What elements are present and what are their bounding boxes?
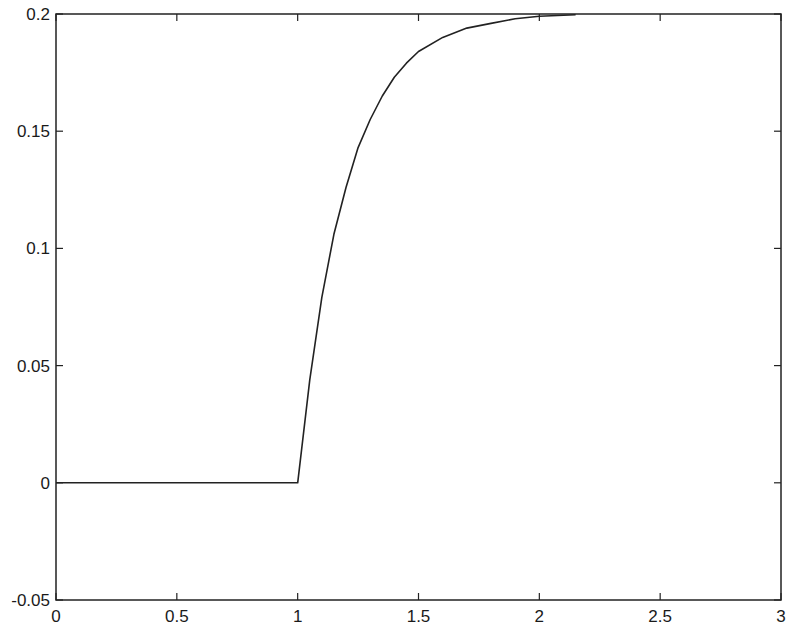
x-tick-label: 2.5 xyxy=(648,607,672,626)
plot-area-border xyxy=(56,14,781,600)
line-chart: 00.511.522.53 -0.0500.050.10.150.2 xyxy=(0,0,788,643)
x-tick-label: 3 xyxy=(776,607,785,626)
axes-frame xyxy=(56,14,781,600)
y-tick-label: 0.1 xyxy=(26,239,50,258)
x-tick-label: 1 xyxy=(293,607,302,626)
x-tick-label: 0.5 xyxy=(165,607,189,626)
y-tick-label: 0.2 xyxy=(26,5,50,24)
x-tick-label: 2 xyxy=(535,607,544,626)
x-tick-label: 1.5 xyxy=(407,607,431,626)
x-tick-label: 0 xyxy=(51,607,60,626)
y-tick-label: 0.15 xyxy=(17,122,50,141)
y-tick-label: 0 xyxy=(41,474,50,493)
y-tick-label: 0.05 xyxy=(17,357,50,376)
y-tick-label: -0.05 xyxy=(11,591,50,610)
